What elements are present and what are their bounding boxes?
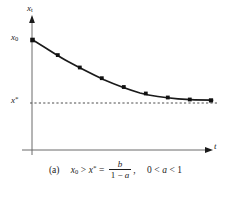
y-axis-label: xt <box>27 4 33 14</box>
condition-operator-2: < <box>167 165 177 175</box>
y-tick-label-steady-state: x* <box>11 96 19 105</box>
condition-operator-1: < <box>152 165 162 175</box>
caption-comma: , <box>133 165 135 175</box>
figure-container: xt x0 x* t (a) x0>x*= b 1 − a , 0<a<1 <box>0 0 231 198</box>
y-axis-arrowhead <box>29 15 35 23</box>
fraction-denominator-variable: a <box>125 170 130 180</box>
y-tick-label-initial: x0 <box>11 33 18 43</box>
figure-caption: (a) x0>x*= b 1 − a , 0<a<1 <box>0 160 231 181</box>
fraction-denominator: 1 − a <box>109 171 132 180</box>
data-point-marker <box>166 96 170 100</box>
data-point-marker <box>122 85 126 89</box>
x-axis-label: t <box>214 142 217 151</box>
caption-panel-label: (a) <box>49 165 60 175</box>
data-point-marker <box>30 38 35 43</box>
data-point-marker <box>78 66 82 70</box>
caption-relation: > <box>78 165 88 175</box>
fraction-numerator: b <box>109 160 132 169</box>
data-point-marker <box>56 53 60 57</box>
y-tick-steady-superscript: * <box>15 95 19 103</box>
x-axis-arrowhead <box>205 147 213 153</box>
caption-equals: = <box>96 165 106 175</box>
data-point-markers <box>30 38 213 103</box>
data-point-marker <box>209 98 213 102</box>
condition-right: 1 <box>177 165 182 175</box>
data-point-marker <box>188 98 192 102</box>
data-point-marker <box>144 92 148 96</box>
trajectory-curve <box>33 40 213 100</box>
x-axis <box>22 147 213 153</box>
y-tick-initial-subscript: 0 <box>15 35 18 42</box>
data-point-marker <box>100 76 104 80</box>
caption-fraction: b 1 − a <box>109 160 132 181</box>
y-axis-label-subscript: t <box>31 6 33 13</box>
fraction-denominator-prefix: 1 − <box>111 170 125 180</box>
y-axis <box>29 15 35 155</box>
